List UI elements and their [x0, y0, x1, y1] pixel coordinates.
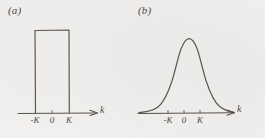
figure-container: (a) -K 0 K k (b) -K: [0, 0, 265, 138]
panel-a: (a) -K 0 K k: [0, 0, 132, 138]
panel-a-tick-label-minus-k: -K: [31, 115, 40, 125]
panel-a-tick-label-zero: 0: [50, 115, 55, 125]
panel-a-tick-label-k: K: [66, 115, 72, 125]
panel-a-rectangle-curve: [35, 30, 69, 113]
panel-b-tick-label-k: K: [197, 115, 203, 125]
panel-b-gaussian-curve: [139, 39, 234, 113]
panel-b-tick-label-minus-k: -K: [164, 115, 173, 125]
panel-a-axis-line: [18, 113, 96, 114]
panel-b-axis-line: [138, 113, 233, 114]
panel-b: (b) -K 0 K k: [133, 0, 265, 138]
panel-b-axis-label-k: k: [237, 103, 241, 114]
panel-b-tick-label-zero: 0: [182, 115, 187, 125]
panel-a-axis-label-k: k: [100, 104, 104, 115]
